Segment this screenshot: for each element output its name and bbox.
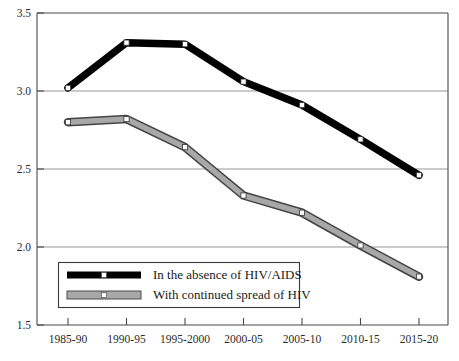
x-axis-tick-label: 1990-95 xyxy=(107,333,146,345)
data-point-marker xyxy=(182,145,187,150)
x-axis-tick-label: 1985-90 xyxy=(49,333,88,345)
chart-legend: In the absence of HIV/AIDSWith continued… xyxy=(59,263,312,308)
x-axis-tick-label: 2000-05 xyxy=(224,333,263,345)
legend-label: With continued spread of HIV xyxy=(153,287,311,302)
data-point-marker xyxy=(241,79,246,84)
chart-container: 1.52.02.53.03.5 1985-901990-951995-20002… xyxy=(0,0,459,361)
data-point-marker xyxy=(124,116,129,121)
y-axis-tick-label: 1.5 xyxy=(17,319,32,331)
data-point-marker xyxy=(124,40,129,45)
y-axis-tick-label: 3.0 xyxy=(17,85,32,97)
x-axis-tick-label: 2005-10 xyxy=(283,333,322,345)
legend-label: In the absence of HIV/AIDS xyxy=(153,267,302,282)
x-axis-tick-label: 1995-2000 xyxy=(160,333,210,345)
y-axis-tick-label: 3.5 xyxy=(17,7,32,19)
y-axis-tick-label: 2.0 xyxy=(17,241,32,253)
data-point-marker xyxy=(416,173,421,178)
line-chart: 1.52.02.53.03.5 1985-901990-951995-20002… xyxy=(0,0,459,361)
y-axis-tick-label: 2.5 xyxy=(17,163,32,175)
data-point-marker xyxy=(358,243,363,248)
legend-swatch-marker xyxy=(102,273,107,278)
data-point-marker xyxy=(241,193,246,198)
legend-swatch-marker xyxy=(102,293,107,298)
data-point-marker xyxy=(65,85,70,90)
data-point-marker xyxy=(299,210,304,215)
x-axis-tick-label: 2010-15 xyxy=(341,333,380,345)
data-point-marker xyxy=(65,120,70,125)
x-axis-tick-label: 2015-20 xyxy=(400,333,439,345)
data-point-marker xyxy=(299,102,304,107)
data-point-marker xyxy=(358,137,363,142)
data-point-marker xyxy=(182,42,187,47)
data-point-marker xyxy=(416,274,421,279)
